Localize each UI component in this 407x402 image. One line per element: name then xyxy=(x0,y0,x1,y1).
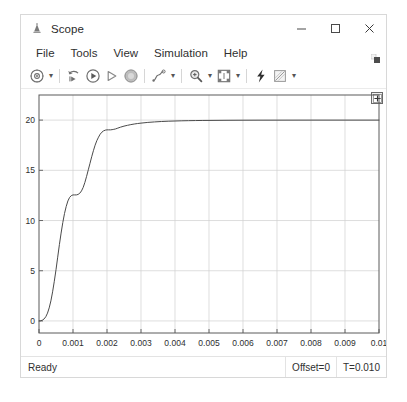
scope-window: Scope File Tools View Simulation xyxy=(20,14,387,378)
svg-text:5: 5 xyxy=(30,266,35,276)
toolbar: ▾ xyxy=(21,64,386,89)
svg-text:0.008: 0.008 xyxy=(300,338,322,348)
configuration-properties-icon[interactable] xyxy=(27,67,46,86)
signal-selection-dropdown-icon[interactable]: ▾ xyxy=(168,67,177,86)
menu-item-help[interactable]: Help xyxy=(216,42,256,64)
svg-text:20: 20 xyxy=(26,115,36,125)
signal-plot: 00.0010.0020.0030.0040.0050.0060.0070.00… xyxy=(21,89,386,356)
menu-item-tools[interactable]: Tools xyxy=(63,42,106,64)
stop-icon[interactable] xyxy=(121,67,140,86)
menu-bar: File Tools View Simulation Help xyxy=(21,42,386,64)
status-offset: Offset=0 xyxy=(285,357,336,377)
status-bar: Ready Offset=0 T=0.010 xyxy=(21,356,386,377)
svg-text:0.002: 0.002 xyxy=(96,338,118,348)
svg-text:0: 0 xyxy=(37,338,42,348)
menu-item-file[interactable]: File xyxy=(28,42,63,64)
svg-text:0.01: 0.01 xyxy=(371,338,386,348)
zoom-dropdown-icon[interactable]: ▾ xyxy=(205,67,214,86)
menu-item-simulation[interactable]: Simulation xyxy=(146,42,216,64)
svg-text:0.009: 0.009 xyxy=(334,338,356,348)
status-time: T=0.010 xyxy=(336,357,386,377)
svg-text:0.004: 0.004 xyxy=(164,338,186,348)
scope-icon xyxy=(29,21,45,37)
toolbar-separator xyxy=(59,69,60,83)
autoscale-dropdown-icon[interactable]: ▾ xyxy=(233,67,242,86)
toolbar-separator xyxy=(246,69,247,83)
svg-text:0.001: 0.001 xyxy=(62,338,84,348)
signal-selection-icon[interactable] xyxy=(149,67,168,86)
window-controls xyxy=(284,15,386,42)
svg-text:10: 10 xyxy=(26,216,36,226)
toolbar-separator xyxy=(181,69,182,83)
status-right-group: Offset=0 T=0.010 xyxy=(285,357,386,377)
svg-text:0.003: 0.003 xyxy=(130,338,152,348)
close-icon[interactable] xyxy=(352,15,386,42)
rewind-to-start-icon[interactable] xyxy=(64,67,83,86)
maximize-icon[interactable] xyxy=(318,15,352,42)
run-icon[interactable] xyxy=(83,67,102,86)
plot-area[interactable]: 00.0010.0020.0030.0040.0050.0060.0070.00… xyxy=(21,89,386,356)
autoscale-icon[interactable] xyxy=(214,67,233,86)
menu-overflow-icon[interactable] xyxy=(371,49,380,58)
svg-text:15: 15 xyxy=(26,165,36,175)
measurements-icon[interactable] xyxy=(270,67,289,86)
svg-text:0: 0 xyxy=(30,316,35,326)
step-forward-icon[interactable] xyxy=(102,67,121,86)
zoom-in-icon[interactable] xyxy=(186,67,205,86)
menu-item-view[interactable]: View xyxy=(105,42,146,64)
highlight-signal-icon[interactable] xyxy=(251,67,270,86)
window-title: Scope xyxy=(51,23,84,35)
toolbar-separator xyxy=(144,69,145,83)
configuration-properties-dropdown-icon[interactable]: ▾ xyxy=(46,67,55,86)
measurements-dropdown-icon[interactable]: ▾ xyxy=(289,67,298,86)
svg-text:0.006: 0.006 xyxy=(232,338,254,348)
minimize-icon[interactable] xyxy=(284,15,318,42)
svg-text:0.005: 0.005 xyxy=(198,338,220,348)
svg-text:0.007: 0.007 xyxy=(266,338,288,348)
status-state: Ready xyxy=(21,362,57,373)
title-bar: Scope xyxy=(21,15,386,42)
